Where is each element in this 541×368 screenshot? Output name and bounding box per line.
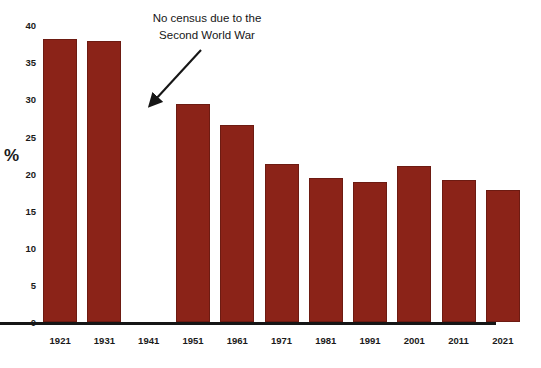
y-tick-40: 40	[10, 21, 36, 31]
y-axis-ticks: 40 35 30 25 20 15 10 5 0	[0, 0, 36, 368]
plot-area	[38, 16, 525, 322]
x-tick-1991: 1991	[348, 336, 392, 346]
annotation-line-2: Second World War	[127, 27, 287, 44]
bar-1961	[220, 125, 254, 322]
bar-1931	[87, 41, 121, 322]
x-tick-1961: 1961	[215, 336, 259, 346]
x-tick-1941: 1941	[127, 336, 171, 346]
bar-1971	[265, 164, 299, 322]
bar-1981	[309, 178, 343, 322]
bar-1951	[176, 104, 210, 322]
bar-2001	[397, 166, 431, 322]
y-tick-10: 10	[10, 244, 36, 254]
x-tick-1921: 1921	[38, 336, 82, 346]
annotation-text: No census due to the Second World War	[127, 10, 287, 43]
x-tick-2011: 2011	[436, 336, 480, 346]
x-tick-1931: 1931	[82, 336, 126, 346]
x-tick-2021: 2021	[481, 336, 525, 346]
y-tick-15: 15	[10, 207, 36, 217]
x-tick-1951: 1951	[171, 336, 215, 346]
x-tick-2001: 2001	[392, 336, 436, 346]
bar-2021	[486, 190, 520, 322]
bar-2011	[442, 180, 476, 322]
y-tick-35: 35	[10, 58, 36, 68]
annotation-line-1: No census due to the	[127, 10, 287, 27]
y-tick-5: 5	[10, 281, 36, 291]
x-axis-line	[0, 322, 496, 325]
bar-1921	[43, 39, 77, 322]
y-tick-20: 20	[10, 170, 36, 180]
y-tick-25: 25	[10, 133, 36, 143]
x-tick-1981: 1981	[304, 336, 348, 346]
bar-1991	[353, 182, 387, 322]
x-tick-1971: 1971	[259, 336, 303, 346]
y-tick-30: 30	[10, 95, 36, 105]
bar-chart: % 40 35 30 25 20 15 10 5 0 1921193119411…	[0, 0, 541, 368]
